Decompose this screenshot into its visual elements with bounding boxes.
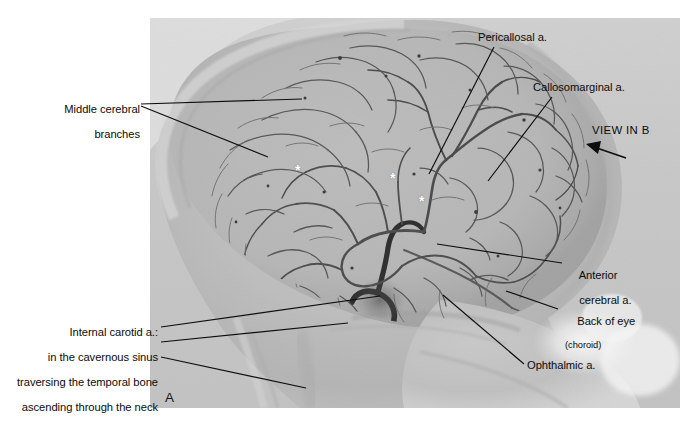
asterisk-1-icon: *: [295, 163, 300, 177]
label-middle-cerebral-branches: Middle cerebral branches: [6, 90, 140, 153]
leader-callosomarginal: [488, 97, 552, 181]
label-internal-carotid-temporal: traversing the temporal bone: [17, 376, 158, 388]
leader-back-of-eye: [506, 291, 558, 309]
leader-ica-neck: [161, 357, 306, 388]
leader-pericallosal: [429, 47, 494, 174]
leader-ophthalmic: [443, 295, 524, 364]
label-internal-carotid-cavernous: in the cavernous sinus: [48, 351, 158, 363]
asterisk-3-icon: *: [419, 194, 424, 208]
leader-anterior-cerebral: [437, 244, 562, 263]
label-back-of-eye-line1: Back of eye: [577, 315, 635, 327]
leader-ica-temporal: [161, 323, 348, 342]
label-middle-cerebral-branches-line1: Middle cerebral: [64, 103, 140, 115]
panel-letter-a: A: [165, 390, 174, 405]
leader-middle-cerebral-upper: [141, 99, 302, 104]
view-in-b-arrowhead: [586, 141, 601, 154]
label-anterior-cerebral-line1: Anterior: [579, 269, 618, 281]
label-back-of-eye-choroid: (choroid): [565, 340, 635, 351]
label-internal-carotid: Internal carotid a.: in the cavernous si…: [0, 313, 158, 426]
label-view-in-b: VIEW IN B: [592, 124, 650, 136]
label-middle-cerebral-branches-line2: branches: [94, 128, 140, 140]
leader-middle-cerebral-lower: [141, 106, 268, 157]
angiogram-figure: Middle cerebral branches Pericallosal a.…: [0, 0, 680, 426]
label-pericallosal: Pericallosal a.: [478, 31, 547, 44]
label-internal-carotid-heading: Internal carotid a.:: [69, 326, 158, 338]
leader-ica-cavernous: [161, 296, 380, 327]
label-callosomarginal: Callosomarginal a.: [533, 81, 625, 94]
asterisk-2-icon: *: [390, 171, 395, 185]
label-internal-carotid-neck: ascending through the neck: [22, 401, 158, 413]
label-ophthalmic: Ophthalmic a.: [527, 359, 595, 372]
